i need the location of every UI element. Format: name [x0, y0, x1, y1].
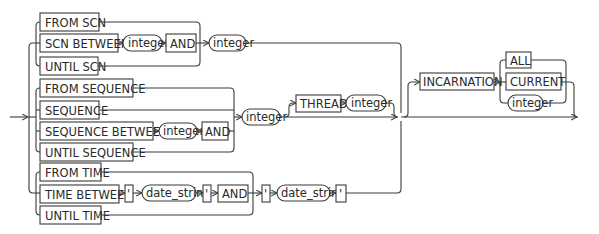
- sequence-label: SEQUENCE: [45, 104, 108, 118]
- scn-and-label: AND: [170, 37, 195, 51]
- from-time-label: FROM TIME: [45, 166, 110, 180]
- all-label: ALL: [510, 54, 531, 68]
- sequence-and-label: AND: [205, 125, 230, 139]
- thread-label: THREAD: [299, 97, 348, 111]
- main-trunk: [10, 43, 36, 193]
- incarnation-label: INCARNATION: [423, 75, 503, 89]
- from-sequence-label: FROM SEQUENCE: [45, 82, 145, 96]
- syntax-diagram: FROM SCN SCN BETWEEN integer AND UNTIL S…: [0, 0, 599, 234]
- from-scn-label: FROM SCN: [45, 16, 106, 30]
- time-between-label: TIME BETWEEN: [44, 188, 133, 202]
- quote-4-label: ': [339, 187, 342, 201]
- until-scn-label: UNTIL SCN: [45, 60, 106, 74]
- time-and-label: AND: [222, 187, 247, 201]
- until-time-label: UNTIL TIME: [45, 209, 110, 223]
- scn-between-label: SCN BETWEEN: [45, 37, 129, 51]
- quote-1-label: ': [127, 187, 130, 201]
- incarnation-group: INCARNATION ALL CURRENT integer: [401, 52, 578, 117]
- current-label: CURRENT: [510, 75, 566, 89]
- quote-3-label: ': [264, 187, 267, 201]
- quote-2-label: ': [205, 187, 208, 201]
- sequence-group: FROM SEQUENCE SEQUENCE SEQUENCE BETWEEN …: [29, 79, 398, 161]
- sequence-between-label: SEQUENCE BETWEEN: [45, 125, 169, 139]
- until-sequence-label: UNTIL SEQUENCE: [45, 146, 146, 160]
